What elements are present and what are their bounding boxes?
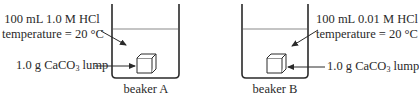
beaker-b-solution-label: 100 mL 0.01 M HCl temperature = 20 °C	[316, 12, 416, 42]
beaker-a-solution-label: 100 mL 1.0 M HCl temperature = 20 °C	[2, 12, 102, 42]
beaker-b-cube-icon	[267, 54, 286, 73]
beaker-b-solid-label: 1.0 g CaCO3 lump	[327, 59, 419, 74]
beaker-a-caption: beaker A	[112, 82, 180, 97]
beaker-b-caption: beaker B	[241, 82, 309, 97]
beaker-a-solid-label: 1.0 g CaCO3 lump	[16, 58, 108, 73]
beaker-b-solution-arrow	[292, 30, 318, 46]
beaker-b	[242, 4, 325, 78]
beaker-a-cube-icon	[137, 54, 156, 73]
beaker-a-solution-arrow	[101, 31, 126, 45]
